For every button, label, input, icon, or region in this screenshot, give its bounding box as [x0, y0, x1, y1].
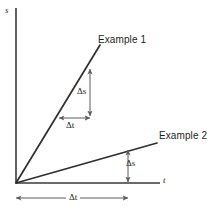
x-axis-label: t: [163, 176, 166, 185]
example-1-delta-s-label: Δs: [77, 87, 86, 96]
example-1-label: Example 1: [98, 35, 146, 45]
graph-canvas: [0, 0, 216, 212]
y-axis-label: s: [5, 6, 9, 15]
baseline-delta-t-label: Δt: [66, 193, 80, 202]
example-2-label: Example 2: [159, 131, 207, 141]
example-2-delta-s-label: Δs: [126, 159, 135, 168]
velocity-graph-figure: s t Example 1 Example 2 Δs Δt Δs Δt: [0, 0, 216, 212]
example-1-delta-t-label: Δt: [66, 121, 74, 130]
